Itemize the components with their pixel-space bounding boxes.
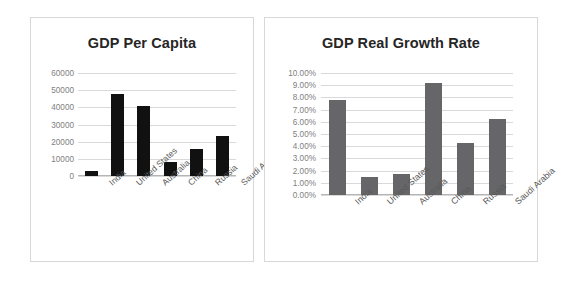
plot-area-gdp-per-capita: 6000050000400003000020000100000 IndiaUni… [78,73,236,176]
category-label: Australia [417,199,424,206]
y-axis-tick-label: 50000 [51,86,74,95]
category-label: Australia [160,180,167,187]
category-label: India [107,180,114,187]
y-axis-tick-label: 0 [69,172,74,181]
y-axis-tick-label: 5.00% [293,130,316,139]
category-label: Saudi Arabia [239,180,246,187]
bar-slot [321,73,353,195]
category-label: India [353,199,360,206]
chart-title-gdp-real-growth-rate: GDP Real Growth Rate [265,35,537,51]
bar-slot [353,73,385,195]
plot-area-gdp-real-growth-rate: 10.00%9.00%8.00%7.00%6.00%5.00%4.00%3.00… [321,73,513,195]
y-axis-tick-label: 4.00% [293,142,316,151]
chart-title-gdp-per-capita: GDP Per Capita [31,35,253,51]
y-axis-tick-label: 1.00% [293,179,316,188]
category-label: Russia [213,180,220,187]
y-axis-tick-label: 7.00% [293,106,316,115]
y-axis-tick-label: 0.00% [293,191,316,200]
bar[interactable] [111,94,124,176]
y-axis-tick-label: 9.00% [293,81,316,90]
category-labels-gdp-per-capita: IndiaUnited StatesAustraliaChinaRussiaSa… [78,176,236,236]
category-label: Russia [481,199,488,206]
category-label: Saudi Arabia [513,199,520,206]
y-axis-tick-label: 10000 [51,155,74,164]
y-axis-tick-label: 2.00% [293,167,316,176]
y-axis-tick-label: 60000 [51,69,74,78]
y-axis-tick-label: 3.00% [293,154,316,163]
bar-slot [481,73,513,195]
bar-slot [78,73,104,176]
y-axis-tick-label: 20000 [51,138,74,147]
category-label: China [186,180,193,187]
y-axis-tick-label: 6.00% [293,118,316,127]
chart-panel-gdp-per-capita[interactable]: GDP Per Capita 6000050000400003000020000… [30,17,254,262]
bar-slot [449,73,481,195]
y-axis-tick-label: 8.00% [293,93,316,102]
category-label: China [449,199,456,206]
screenshot-root: GDP Per Capita 6000050000400003000020000… [0,0,568,282]
y-axis-tick-label: 30000 [51,121,74,130]
y-axis-tick-label: 10.00% [288,69,316,78]
bar[interactable] [329,100,346,195]
bar-slot [104,73,130,176]
chart-panel-gdp-real-growth-rate[interactable]: GDP Real Growth Rate 10.00%9.00%8.00%7.0… [264,17,538,262]
bar-slot [131,73,157,176]
bar-slot [210,73,236,176]
category-label: United States [134,180,141,187]
category-label: United States [385,199,392,206]
category-labels-gdp-real-growth-rate: IndiaUnited StatesAustraliaChinaRussiaSa… [321,195,513,255]
y-axis-tick-label: 40000 [51,103,74,112]
